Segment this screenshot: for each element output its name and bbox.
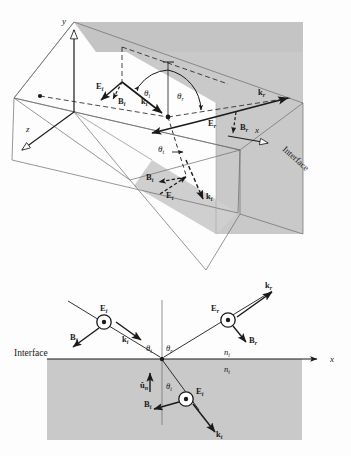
axis-label-z: z xyxy=(25,124,30,134)
optics-reflection-refraction-figure: y z x θi θr θt ki Ei B xyxy=(0,0,351,456)
axis-label-x-lower: x xyxy=(329,354,334,364)
E-r-out-of-page-dot xyxy=(226,318,230,322)
origin-point-upper xyxy=(166,115,171,120)
origin-point-lower xyxy=(160,357,164,361)
E-t-out-of-page-dot xyxy=(184,397,188,401)
construction-dot xyxy=(38,94,42,98)
transmitted-medium-block xyxy=(47,359,302,440)
interface-label-lower: Interface xyxy=(14,348,48,358)
axis-label-y: y xyxy=(61,16,66,26)
plane-top-band xyxy=(74,22,303,52)
axis-label-x: x xyxy=(254,125,259,135)
E-i-out-of-page-dot xyxy=(102,320,106,324)
